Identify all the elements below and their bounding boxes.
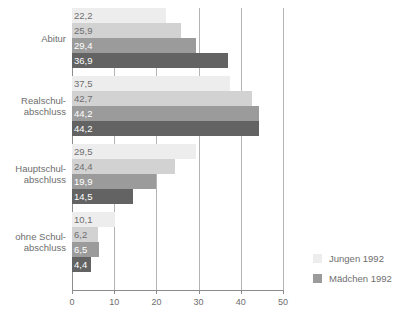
x-axis-tick-label: 0 xyxy=(69,297,74,307)
bar-row: 44,2 xyxy=(72,121,283,136)
bar-row: 37,5 xyxy=(72,76,283,91)
category-label-line: Abitur xyxy=(0,33,66,44)
category-label: Realschul-abschluss xyxy=(0,95,66,117)
legend-label: Mädchen 1992 xyxy=(329,271,392,286)
bar-row: 14,5 xyxy=(72,189,283,204)
bar-row: 42,7 xyxy=(72,91,283,106)
bar-value-label: 29,4 xyxy=(74,38,93,53)
category-label-line: ohne Schul- xyxy=(0,231,66,242)
bar-value-label: 42,7 xyxy=(74,91,93,106)
category-label-line: abschluss xyxy=(0,106,66,117)
x-axis-tick-label: 20 xyxy=(151,297,161,307)
bar-row: 36,9 xyxy=(72,53,283,68)
bar-value-label: 36,9 xyxy=(74,53,93,68)
gridline-50 xyxy=(283,8,284,290)
bar-value-label: 22,2 xyxy=(74,8,93,23)
category-label: Hauptschul-abschluss xyxy=(0,163,66,185)
bar-chart: 22,225,929,436,937,542,744,244,229,524,4… xyxy=(0,0,417,318)
bar-value-label: 44,2 xyxy=(74,106,93,121)
bar-value-label: 44,2 xyxy=(74,121,93,136)
category-label-line: Realschul- xyxy=(0,95,66,106)
category-label-line: abschluss xyxy=(0,242,66,253)
bar-row: 10,1 xyxy=(72,212,283,227)
bar-row: 29,5 xyxy=(72,144,283,159)
x-axis-tick xyxy=(72,290,73,294)
x-axis-tick-label: 10 xyxy=(109,297,119,307)
bar-row: 29,4 xyxy=(72,38,283,53)
legend-label: Jungen 1992 xyxy=(329,251,384,266)
x-axis-tick-label: 30 xyxy=(194,297,204,307)
bar xyxy=(72,76,230,91)
category-label: ohne Schul-abschluss xyxy=(0,231,66,253)
bar-row: 25,9 xyxy=(72,23,283,38)
bar xyxy=(72,91,252,106)
category-label-line: abschluss xyxy=(0,174,66,185)
bar xyxy=(72,121,259,136)
bar-value-label: 19,9 xyxy=(74,174,93,189)
bar xyxy=(72,53,228,68)
bar-value-label: 29,5 xyxy=(74,144,93,159)
x-axis-tick xyxy=(241,290,242,294)
bar-value-label: 25,9 xyxy=(74,23,93,38)
bar-value-label: 4,4 xyxy=(74,257,87,272)
category-label-line: Hauptschul- xyxy=(0,163,66,174)
bar-value-label: 37,5 xyxy=(74,76,93,91)
bar xyxy=(72,106,259,121)
bar-value-label: 6,5 xyxy=(74,242,87,257)
bar-row: 6,5 xyxy=(72,242,283,257)
bar-row: 4,4 xyxy=(72,257,283,272)
plot-area: 22,225,929,436,937,542,744,244,229,524,4… xyxy=(72,8,283,290)
bar-row: 24,4 xyxy=(72,159,283,174)
x-axis-tick xyxy=(199,290,200,294)
legend-swatch xyxy=(313,254,322,263)
bar-row: 6,2 xyxy=(72,227,283,242)
x-axis-tick-label: 40 xyxy=(236,297,246,307)
category-label: Abitur xyxy=(0,33,66,44)
bar-value-label: 24,4 xyxy=(74,159,93,174)
bar-value-label: 6,2 xyxy=(74,227,87,242)
bar-row: 44,2 xyxy=(72,106,283,121)
x-axis-line xyxy=(72,290,283,291)
bar-value-label: 10,1 xyxy=(74,212,93,227)
x-axis-tick xyxy=(114,290,115,294)
legend-swatch xyxy=(313,274,322,283)
bar-row: 22,2 xyxy=(72,8,283,23)
x-axis-tick xyxy=(283,290,284,294)
x-axis-tick xyxy=(156,290,157,294)
bar-row: 19,9 xyxy=(72,174,283,189)
x-axis-tick-label: 50 xyxy=(278,297,288,307)
bar-value-label: 14,5 xyxy=(74,189,93,204)
